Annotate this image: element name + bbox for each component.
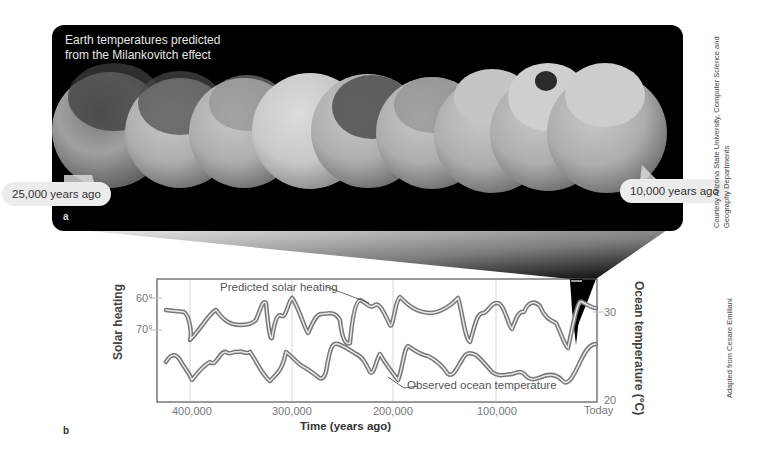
tick-x-today: Today — [584, 404, 613, 416]
y-axis-label-right: Ocean temperature (°C) — [632, 281, 646, 415]
tick-x-300000: 300,000 — [272, 405, 312, 417]
y-axis-label-left: Solar heating — [111, 284, 125, 360]
annotation-ocean-temperature: Observed ocean temperature — [407, 379, 557, 391]
series-ocean-temperature — [166, 344, 596, 383]
panel-label-b: b — [63, 425, 69, 436]
tick-x-100000: 100,000 — [477, 405, 517, 417]
tick-right-30: 30 — [604, 306, 616, 318]
tick-x-400000: 400,000 — [172, 405, 212, 417]
tick-x-200000: 200,000 — [373, 405, 413, 417]
annotation-solar-heating: Predicted solar heating — [220, 281, 338, 293]
x-axis-label: Time (years ago) — [300, 420, 391, 432]
tick-left-70: 70° — [136, 323, 153, 335]
tick-left-60: 60° — [136, 292, 153, 304]
